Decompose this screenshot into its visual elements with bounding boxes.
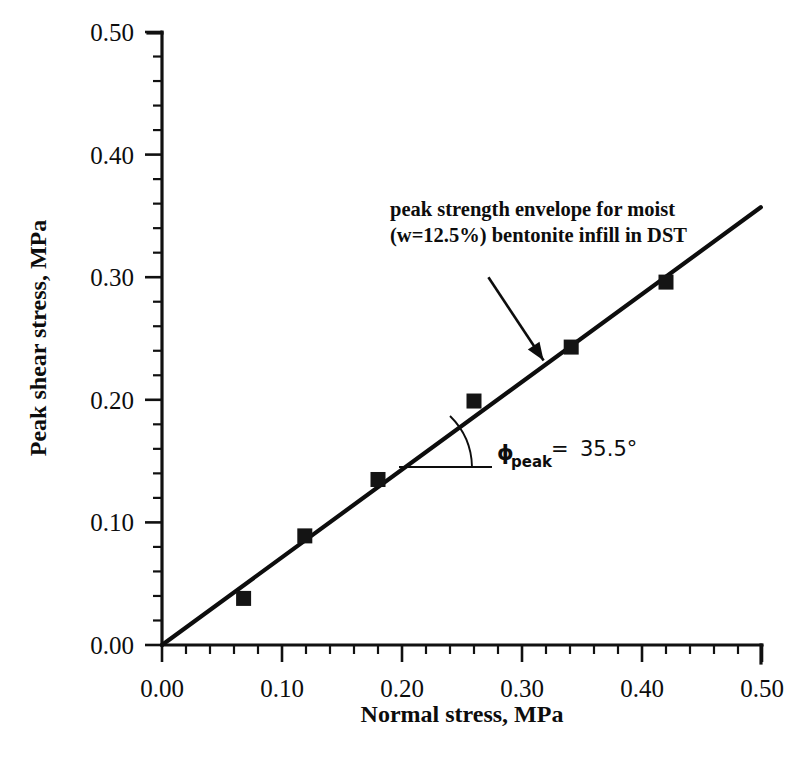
data-marker-square — [659, 275, 674, 290]
data-marker-square — [564, 340, 579, 355]
x-axis-title: Normal stress, MPa — [361, 701, 564, 727]
callout-line-2: (w=12.5%) bentonite infill in DST — [390, 224, 687, 247]
angle-arc — [450, 416, 472, 467]
figure-root: 0.000.100.200.300.400.50 0.000.100.200.3… — [0, 0, 800, 759]
data-marker-square — [236, 591, 251, 606]
y-axis-title: Peak shear stress, MPa — [25, 220, 51, 456]
callout-line-1: peak strength envelope for moist — [390, 198, 675, 221]
strength-envelope-line — [162, 207, 761, 645]
x-tick-label: 0.20 — [380, 675, 424, 702]
data-marker-square — [297, 528, 312, 543]
y-axis-ticks — [145, 32, 162, 645]
y-tick-label: 0.10 — [90, 509, 134, 536]
envelope-line — [162, 207, 761, 645]
callout-arrow-head — [528, 342, 544, 361]
y-tick-label: 0.40 — [90, 142, 134, 169]
x-tick-label: 0.50 — [740, 675, 784, 702]
axis-frame — [148, 32, 762, 663]
peak-strength-chart: 0.000.100.200.300.400.50 0.000.100.200.3… — [0, 0, 800, 759]
data-marker-square — [371, 472, 386, 487]
envelope-callout-annotation: peak strength envelope for moist (w=12.5… — [390, 198, 687, 361]
y-tick-label: 0.50 — [90, 19, 134, 46]
phi-value: 35.5° — [580, 437, 637, 461]
x-tick-label: 0.40 — [620, 675, 664, 702]
y-tick-label: 0.20 — [90, 387, 134, 414]
y-tick-label: 0.30 — [90, 264, 134, 291]
x-tick-label: 0.30 — [500, 675, 544, 702]
x-axis-ticks — [162, 645, 762, 662]
phi-equals: = — [551, 437, 569, 461]
x-axis-tick-labels: 0.000.100.200.300.400.50 — [140, 675, 784, 702]
data-marker-square — [467, 394, 482, 409]
y-axis-tick-labels: 0.000.100.200.300.400.50 — [90, 19, 134, 659]
x-tick-label: 0.00 — [140, 675, 184, 702]
phi-subscript: peak — [511, 453, 553, 471]
x-tick-label: 0.10 — [260, 675, 304, 702]
y-tick-label: 0.00 — [90, 632, 134, 659]
